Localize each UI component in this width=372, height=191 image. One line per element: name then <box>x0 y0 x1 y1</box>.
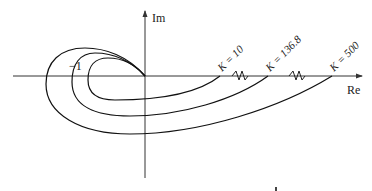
nyquist-curve-k136 <box>72 53 268 116</box>
nyquist-diagram: Im Re −1 K = 10 K = 136.8 K = 500 <box>0 0 372 191</box>
imaginary-axis-label: Im <box>152 11 166 25</box>
real-axis-label: Re <box>347 83 360 97</box>
gain-label-k500: K = 500 <box>326 39 362 75</box>
nyquist-curve-k10 <box>88 58 220 100</box>
artifact-mark <box>275 187 277 191</box>
gain-label-k10: K = 10 <box>214 42 246 74</box>
gain-label-k136: K = 136.8 <box>262 33 303 74</box>
